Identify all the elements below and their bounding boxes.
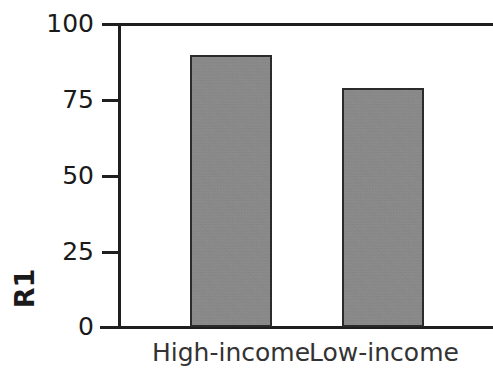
bar-high-income (190, 55, 272, 327)
y-tick-mark-100 (102, 23, 119, 26)
y-tick-label-75-wrap: 75 (0, 87, 94, 113)
y-tick-label-25: 25 (0, 239, 94, 264)
x-axis-label-low-income: Low-income (306, 340, 462, 365)
y-axis-title: R1 (2, 262, 48, 314)
y-axis-title-text: R1 (9, 268, 40, 308)
y-tick-label-50-wrap: 50 (0, 163, 94, 189)
y-tick-label-100-wrap: 100 (0, 11, 94, 37)
y-tick-label-50: 50 (0, 163, 94, 188)
y-tick-mark-75 (102, 99, 119, 102)
y-tick-mark-50 (102, 175, 119, 178)
y-tick-label-75: 75 (0, 87, 94, 112)
y-tick-label-25-wrap: 25 (0, 239, 94, 265)
y-tick-label-100: 100 (0, 11, 94, 36)
x-axis-baseline (100, 326, 493, 329)
y-tick-label-0: 0 (0, 314, 94, 339)
y-tick-mark-25 (102, 251, 119, 254)
x-axis-label-high-income: High-income (150, 340, 312, 365)
bar-chart-figure: R1 100 75 50 25 0 High-income Low-income (0, 0, 493, 375)
plot-top-border (118, 23, 493, 26)
bar-low-income (342, 88, 424, 327)
y-tick-label-0-wrap: 0 (0, 314, 94, 340)
y-tick-mark-0 (102, 326, 119, 329)
